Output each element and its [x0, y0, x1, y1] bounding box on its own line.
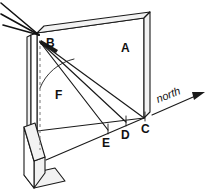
label-f: F — [55, 88, 62, 102]
label-c: C — [141, 122, 150, 136]
panel-front-face — [37, 18, 144, 131]
post-side-face — [27, 35, 31, 135]
north-arrow-head — [192, 92, 205, 100]
vertical-panel-group — [37, 12, 150, 131]
north-label: north — [154, 84, 182, 105]
base-wedge-group — [24, 123, 65, 188]
line-diagram-svg: A B C D E F north — [0, 0, 210, 195]
label-a: A — [121, 41, 130, 55]
panel-right-thickness-band — [144, 12, 150, 118]
left-post-group — [27, 33, 37, 135]
post-front-face — [31, 33, 37, 133]
label-b: B — [46, 36, 55, 50]
label-d: D — [121, 128, 130, 142]
label-e: E — [102, 136, 110, 150]
incoming-ray-2 — [1, 14, 39, 35]
figure-canvas: A B C D E F north — [0, 0, 210, 195]
incoming-rays-group — [1, 3, 39, 35]
